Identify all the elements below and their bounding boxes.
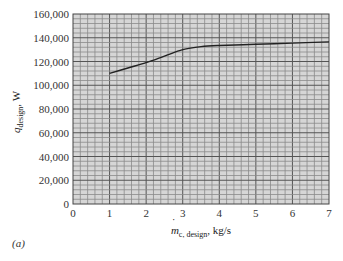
- panel-label: (a): [12, 237, 25, 249]
- y-tick-label: 100,000: [33, 79, 69, 91]
- y-axis-ticks: 020,00040,00060,00080,000100,000120,0001…: [33, 8, 69, 210]
- chart: 020,00040,00060,00080,000100,000120,0001…: [0, 0, 343, 261]
- x-axis-ticks: 01234567: [70, 207, 332, 219]
- y-tick-label: 60,000: [39, 127, 70, 139]
- x-tick-label: 5: [253, 207, 259, 219]
- y-tick-label: 40,000: [39, 151, 70, 163]
- x-tick-label: 1: [107, 207, 113, 219]
- y-tick-label: 160,000: [33, 8, 69, 20]
- x-tick-label: 3: [180, 207, 186, 219]
- x-tick-label: 7: [326, 207, 332, 219]
- x-tick-label: 4: [217, 207, 223, 219]
- y-tick-label: 140,000: [33, 32, 69, 44]
- x-tick-label: 6: [290, 207, 296, 219]
- x-axis-label: mc, design, kg/s: [171, 224, 231, 239]
- y-tick-label: 80,000: [39, 103, 70, 115]
- x-tick-label: 2: [143, 207, 149, 219]
- y-tick-label: 20,000: [39, 174, 70, 186]
- x-axis-label-dot: ·: [172, 214, 175, 225]
- y-axis-label: qdesign, W: [10, 90, 25, 133]
- y-tick-label: 0: [64, 198, 70, 210]
- x-tick-label: 0: [70, 207, 76, 219]
- y-tick-label: 120,000: [33, 56, 69, 68]
